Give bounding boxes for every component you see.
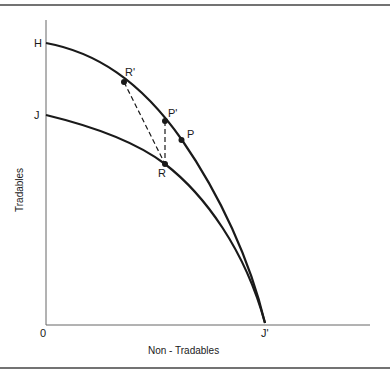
outer-frontier-curve (46, 43, 265, 323)
x-axis-title: Non - Tradables (148, 345, 219, 356)
label-j: J (34, 109, 40, 121)
label-h: H (34, 37, 42, 49)
point-r-prime (121, 79, 127, 85)
label-r-prime: R' (125, 66, 135, 78)
ppf-diagram: H J R' P' P R J' 0 Non - Tradables Trada… (0, 0, 390, 374)
label-p: P (187, 128, 194, 140)
origin-label: 0 (40, 327, 46, 339)
point-p (179, 137, 185, 143)
label-r: R (158, 167, 166, 179)
inner-frontier-curve (46, 115, 265, 323)
label-p-prime: P' (168, 107, 177, 119)
label-j-prime: J' (261, 327, 269, 339)
y-axis-title: Tradables (14, 168, 25, 212)
